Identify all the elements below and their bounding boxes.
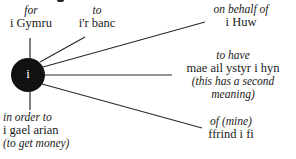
welsh-mae-ail-ystyr-i-hyn: mae ail ystyr i hyn: [170, 62, 296, 75]
branch-on-behalf-of: on behalf of i Huw: [196, 3, 286, 29]
branch-in-order-to: in order to i gael arian (to get money): [3, 111, 113, 150]
branch-to: to i'r banc: [72, 4, 122, 30]
branch-for: for i Gymru: [0, 4, 62, 30]
note-to-get-money: (to get money): [3, 137, 113, 150]
branch-of-mine: of (mine) ffrind i fi: [196, 115, 266, 141]
welsh-ir-banc: i'r banc: [72, 17, 122, 30]
welsh-i-huw: i Huw: [196, 16, 286, 29]
note-second-meaning: (this has a second meaning): [170, 75, 296, 101]
preposition-diagram: i for i Gymru to i'r banc on behalf of i…: [0, 0, 296, 159]
hub-letter: i: [20, 66, 36, 82]
branch-to-have: to have mae ail ystyr i hyn (this has a …: [170, 49, 296, 101]
welsh-ffrind-i-fi: ffrind i fi: [196, 128, 266, 141]
welsh-i-gael-arian: i gael arian: [3, 124, 113, 137]
welsh-i-gymru: i Gymru: [0, 17, 62, 30]
line-to: [40, 37, 85, 62]
